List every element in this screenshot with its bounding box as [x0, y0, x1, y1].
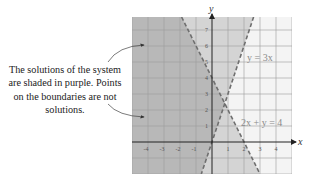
y-tick: 2 [205, 107, 208, 113]
y-tick: 1 [205, 123, 208, 129]
x-tick: 2 [243, 146, 246, 152]
y-axis-label: y [208, 3, 214, 14]
x-tick: -2 [176, 146, 181, 152]
inequality-graph: y x -4 -3 -2 -1 1 2 3 4 1 2 3 4 5 6 7 y … [0, 0, 309, 179]
y-tick: 5 [205, 59, 208, 65]
x-tick: 1 [227, 146, 230, 152]
x-tick: -1 [192, 146, 197, 152]
x-tick: -4 [144, 146, 149, 152]
y-tick: 3 [205, 91, 208, 97]
y-tick: 7 [205, 27, 208, 33]
y-tick: 6 [205, 43, 208, 49]
line-label-y-eq-3x: y = 3x [247, 52, 273, 63]
x-tick: -3 [160, 146, 165, 152]
x-axis-label: x [297, 136, 303, 147]
y-tick: 4 [205, 75, 208, 81]
x-tick: 3 [259, 146, 262, 152]
line-label-2x-plus-y-eq-4: 2x + y = 4 [241, 117, 282, 128]
x-tick: 4 [275, 146, 278, 152]
